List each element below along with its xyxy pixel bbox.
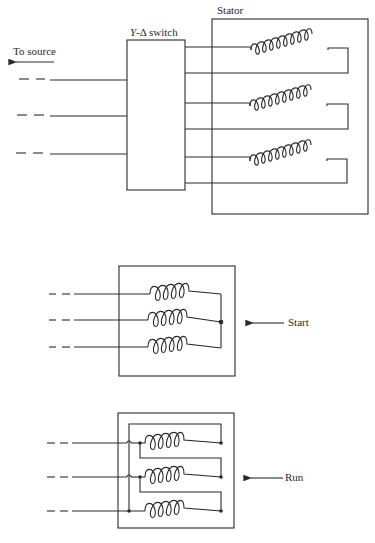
- start-coil-3: [148, 336, 221, 353]
- source-lines: [16, 79, 127, 154]
- stator-phase-1: [185, 29, 348, 73]
- switch-label: Y-Δ switch: [130, 26, 178, 38]
- start-coil-1: [150, 283, 221, 300]
- run-coil-3: [145, 500, 221, 517]
- start-section: [49, 266, 284, 376]
- run-delta-link-outer: [129, 424, 221, 511]
- start-input-lines: [49, 294, 150, 347]
- stator-label: Stator: [217, 4, 243, 16]
- run-junction-nodes: [127, 441, 223, 513]
- y-delta-diagram: [0, 0, 375, 543]
- run-section: [47, 413, 283, 528]
- start-coil-2: [148, 309, 221, 326]
- run-label: Run: [285, 471, 303, 483]
- to-source-label: To source: [13, 45, 56, 57]
- stator-phase-2: [185, 85, 348, 129]
- top-section: [16, 19, 368, 214]
- y-delta-switch-box: [127, 40, 185, 190]
- run-input-lines: [47, 441, 145, 511]
- start-neutral-node: [219, 320, 223, 324]
- stator-phase-3: [185, 140, 347, 183]
- run-coil-2: [140, 466, 221, 483]
- start-label: Start: [288, 316, 309, 328]
- switch-label-rest: -Δ switch: [136, 26, 178, 38]
- run-coil-1: [140, 432, 221, 449]
